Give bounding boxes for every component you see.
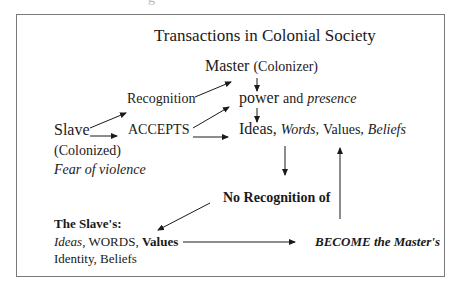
arrow-accepts-to-power xyxy=(193,107,229,128)
arrow-slave-to-recognition xyxy=(90,113,126,128)
arrow-no-recognition-to-slaves xyxy=(158,203,210,230)
arrows-layer xyxy=(0,0,463,291)
arrow-recognition-to-master xyxy=(195,82,231,97)
